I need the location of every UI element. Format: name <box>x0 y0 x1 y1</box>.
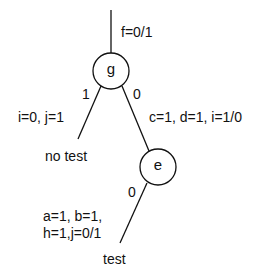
leaf-no-test: no test <box>45 148 87 164</box>
leaf-test: test <box>103 251 126 267</box>
node-g-label: g <box>101 61 121 77</box>
branch-label-e-0: 0 <box>128 184 136 200</box>
branch-label-g-1: 1 <box>82 86 90 102</box>
branch-label-g-0: 0 <box>133 86 141 102</box>
root-edge-label: f=0/1 <box>121 24 153 40</box>
edge-label-g-no-test: i=0, j=1 <box>18 109 64 125</box>
edge-label-g-e: c=1, d=1, i=1/0 <box>149 109 242 125</box>
node-e-label: e <box>148 157 168 173</box>
tree-graphic <box>0 0 268 278</box>
edge-label-e-test-line1: a=1, b=1, <box>43 208 102 224</box>
edge-label-e-test-line2: h=1,j=0/1 <box>43 225 101 241</box>
